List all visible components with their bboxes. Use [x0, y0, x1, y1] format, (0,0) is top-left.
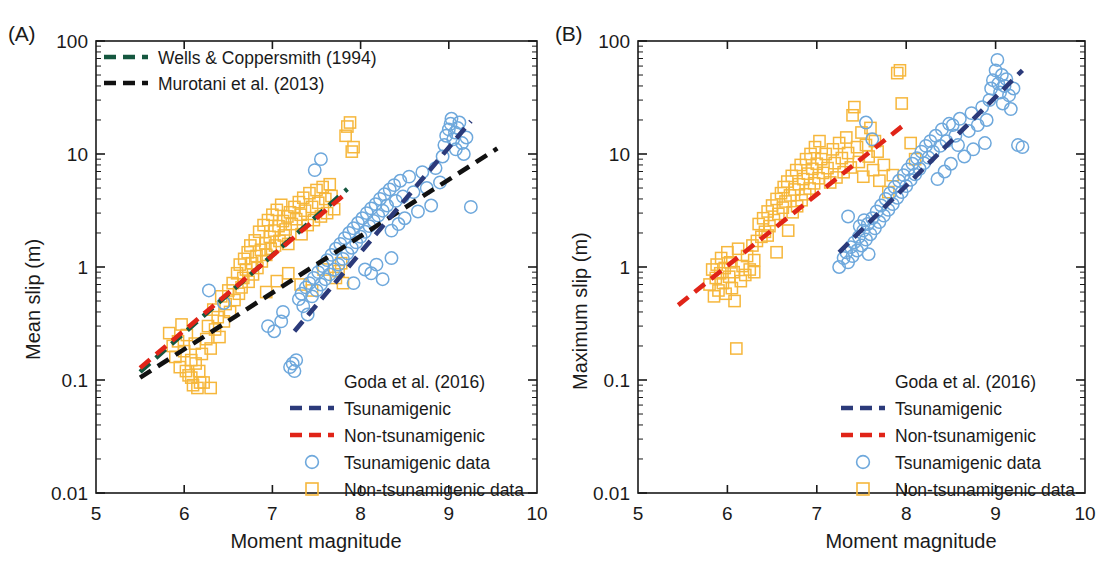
- y-tick-label: 0.01: [51, 483, 88, 504]
- legend-label-goda: Tsunamigenic: [344, 399, 451, 419]
- y-tick-label: 1: [619, 257, 630, 278]
- y-tick-label: 100: [598, 31, 630, 52]
- legend-reference-models: Wells & Coppersmith (1994)Murotani et al…: [104, 48, 377, 94]
- legend-label-goda: Non-tsunamigenic data: [344, 480, 524, 500]
- panel-a: (A) Mean slip (m) Moment magnitude 0.010…: [0, 0, 552, 569]
- legend-label-reference: Murotani et al. (2013): [158, 74, 324, 94]
- legend-label-reference: Wells & Coppersmith (1994): [158, 48, 377, 68]
- figure-root: (A) Mean slip (m) Moment magnitude 0.010…: [0, 0, 1103, 569]
- x-tick-label: 5: [91, 503, 102, 524]
- legend-goda: Goda et al. (2016)TsunamigenicNon-tsunam…: [841, 372, 1075, 500]
- legend-label-goda: Tsunamigenic data: [344, 453, 490, 473]
- legend-label-goda: Non-tsunamigenic: [344, 426, 485, 446]
- x-tick-label: 8: [355, 503, 366, 524]
- legend-label-goda: Non-tsunamigenic data: [895, 480, 1075, 500]
- y-tick-label: 0.1: [62, 370, 88, 391]
- x-tick-label: 9: [990, 503, 1001, 524]
- x-tick-label: 10: [526, 503, 547, 524]
- y-tick-label: 0.1: [604, 370, 630, 391]
- y-tick-label: 0.01: [593, 483, 630, 504]
- legend-label-goda: Tsunamigenic data: [895, 453, 1041, 473]
- legend-title-goda: Goda et al. (2016): [895, 372, 1036, 392]
- panel-b-plot-area: 0.010.11101005678910Goda et al. (2016)Ts…: [551, 0, 1103, 569]
- x-tick-label: 6: [722, 503, 733, 524]
- x-tick-label: 8: [901, 503, 912, 524]
- legend-label-goda: Tsunamigenic: [895, 399, 1002, 419]
- x-tick-label: 7: [267, 503, 278, 524]
- panel-a-plot-area: 0.010.11101005678910Wells & Coppersmith …: [0, 0, 552, 569]
- y-tick-label: 10: [609, 144, 630, 165]
- legend-goda: Goda et al. (2016)TsunamigenicNon-tsunam…: [290, 372, 524, 500]
- x-tick-label: 7: [812, 503, 823, 524]
- scatter-series-non-tsunamigenic: [704, 65, 921, 354]
- panel-b: (B) Maximum slip (m) Moment magnitude 0.…: [551, 0, 1103, 569]
- legend-title-goda: Goda et al. (2016): [344, 372, 485, 392]
- trend-line: [839, 70, 1022, 252]
- x-tick-label: 9: [444, 503, 455, 524]
- y-tick-label: 1: [77, 257, 88, 278]
- trend-line: [140, 148, 497, 377]
- x-tick-label: 6: [179, 503, 190, 524]
- y-tick-label: 10: [67, 144, 88, 165]
- x-tick-label: 5: [633, 503, 644, 524]
- legend-label-goda: Non-tsunamigenic: [895, 426, 1036, 446]
- x-tick-label: 10: [1074, 503, 1095, 524]
- y-tick-label: 100: [56, 31, 88, 52]
- scatter-series-tsunamigenic: [203, 113, 477, 378]
